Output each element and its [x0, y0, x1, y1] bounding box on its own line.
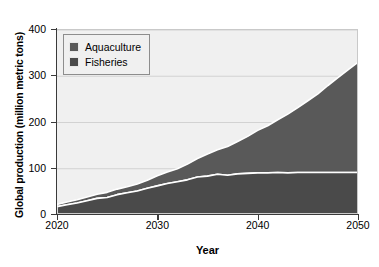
- x-tick-2030: 2030: [127, 219, 187, 231]
- y-tick-mark: [51, 168, 57, 169]
- y-tick-mark: [51, 75, 57, 76]
- chart-figure: Global production (million metric tons) …: [0, 0, 379, 267]
- y-tick-mark: [51, 29, 57, 30]
- y-tick-mark: [51, 122, 57, 123]
- legend-swatch-fisheries: [69, 57, 79, 67]
- legend-item-aquaculture[interactable]: Aquaculture: [69, 40, 141, 54]
- legend-item-fisheries[interactable]: Fisheries: [69, 55, 141, 69]
- legend-swatch-aquaculture: [69, 42, 79, 52]
- x-axis-line: [56, 214, 359, 215]
- x-tick-2020: 2020: [27, 219, 87, 231]
- x-tick-2040: 2040: [228, 219, 288, 231]
- y-tick-200: 200: [0, 117, 46, 128]
- x-axis-title: Year: [57, 244, 358, 256]
- legend-label-aquaculture: Aquaculture: [85, 41, 141, 53]
- chart-legend: Aquaculture Fisheries: [63, 34, 150, 75]
- x-tick-mark: [157, 214, 158, 220]
- x-tick-mark: [358, 214, 359, 220]
- legend-label-fisheries: Fisheries: [85, 56, 128, 68]
- y-tick-100: 100: [0, 163, 46, 174]
- y-tick-0: 0: [0, 209, 46, 220]
- x-tick-mark: [57, 214, 58, 220]
- x-tick-2050: 2050: [328, 219, 379, 231]
- y-tick-300: 300: [0, 70, 46, 81]
- x-tick-mark: [258, 214, 259, 220]
- y-tick-400: 400: [0, 24, 46, 35]
